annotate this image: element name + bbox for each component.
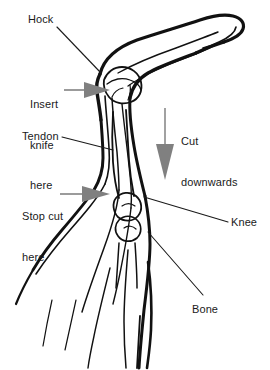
- label-insert-line-1: Insert: [30, 98, 58, 112]
- label-cutdown-line-2: downwards: [181, 176, 238, 190]
- label-bone: Bone: [192, 303, 218, 317]
- label-stopcut-line-2: here: [22, 251, 63, 265]
- label-cutdown-line-1: Cut: [181, 135, 238, 149]
- label-stop-cut-here: Stop cut here: [22, 183, 63, 291]
- label-hock: Hock: [28, 13, 53, 27]
- label-stopcut-line-1: Stop cut: [22, 210, 63, 224]
- label-knee: Knee: [231, 216, 257, 230]
- label-tendon: Tendon: [22, 130, 59, 144]
- anatomy-diagram: Hock Insert knife here Tendon Stop cut h…: [0, 0, 270, 370]
- label-cut-downwards: Cut downwards: [181, 108, 238, 216]
